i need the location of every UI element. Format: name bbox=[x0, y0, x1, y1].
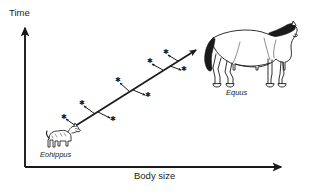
branch-line bbox=[152, 64, 163, 70]
figure-canvas: ✱ ✱ ✱ ✱ ✱ ✱ ✱ ✱ bbox=[0, 0, 311, 192]
asterisk-icon: ✱ bbox=[163, 48, 169, 55]
branch-group bbox=[66, 55, 181, 126]
branch-line bbox=[120, 83, 130, 92]
branch-line bbox=[168, 55, 178, 61]
asterisk-icon: ✱ bbox=[61, 113, 67, 120]
label-equus: Equus bbox=[226, 89, 247, 97]
branch-line bbox=[84, 106, 95, 114]
branch-asterisk-group: ✱ ✱ ✱ ✱ ✱ ✱ ✱ ✱ bbox=[61, 48, 187, 122]
branch-line bbox=[170, 66, 181, 70]
asterisk-icon: ✱ bbox=[115, 76, 121, 83]
branch-line bbox=[98, 112, 110, 118]
diagonal-trend-arrow bbox=[72, 50, 196, 128]
asterisk-icon: ✱ bbox=[79, 99, 85, 106]
equus-illustration bbox=[205, 21, 298, 87]
axis-label-time: Time bbox=[9, 8, 30, 18]
asterisk-icon: ✱ bbox=[147, 57, 153, 64]
asterisk-icon: ✱ bbox=[181, 65, 187, 72]
label-eohippus: Eohippus bbox=[40, 151, 71, 159]
axis-label-body-size: Body size bbox=[134, 171, 175, 181]
evolution-trend-figure: ✱ ✱ ✱ ✱ ✱ ✱ ✱ ✱ bbox=[0, 0, 311, 192]
asterisk-icon: ✱ bbox=[145, 91, 151, 98]
eohippus-illustration bbox=[47, 123, 81, 147]
branch-line bbox=[133, 90, 145, 95]
asterisk-icon: ✱ bbox=[110, 115, 116, 122]
